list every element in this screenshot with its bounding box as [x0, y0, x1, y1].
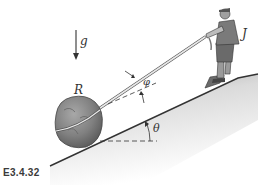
figure-caption: E3.4.32 — [3, 167, 40, 178]
physics-diagram: g R J φ θ E3.4.32 — [0, 0, 267, 185]
gravity-arrow-icon — [73, 30, 79, 60]
rope — [100, 37, 211, 108]
rope-angle-marker — [125, 71, 144, 103]
person-J — [205, 8, 239, 88]
rock-label: R — [74, 84, 83, 96]
slope-angle-label: θ — [153, 123, 160, 134]
rock-R — [55, 96, 102, 148]
gravity-label: g — [80, 35, 88, 47]
rope-angle-label: φ — [143, 77, 150, 87]
diagram-canvas — [0, 0, 267, 185]
person-label: J — [242, 28, 247, 40]
